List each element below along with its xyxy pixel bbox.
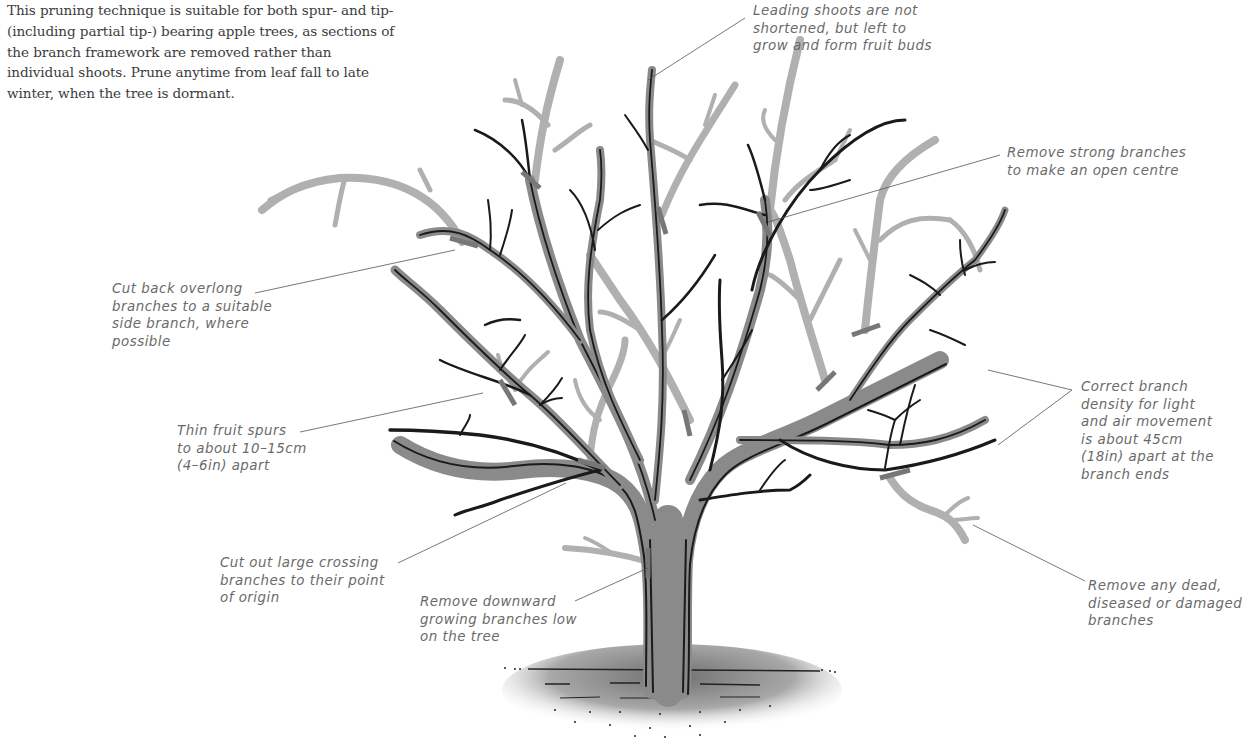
label-dead-branches: Remove any dead, diseased or damaged bra… [1088, 577, 1242, 630]
label-branch-density: Correct branch density for light and air… [1081, 378, 1214, 484]
label-leading-shoots: Leading shoots are not shortened, but le… [753, 2, 932, 55]
label-fruit-spurs: Thin fruit spurs to about 10–15cm (4–6in… [177, 422, 307, 475]
label-overlong-branches: Cut back overlong branches to a suitable… [112, 280, 272, 350]
label-crossing-branches: Cut out large crossing branches to their… [220, 554, 385, 607]
label-open-centre: Remove strong branches to make an open c… [1007, 144, 1186, 179]
tree-illustration [0, 0, 1256, 742]
label-downward-branches: Remove downward growing branches low on … [420, 593, 577, 646]
